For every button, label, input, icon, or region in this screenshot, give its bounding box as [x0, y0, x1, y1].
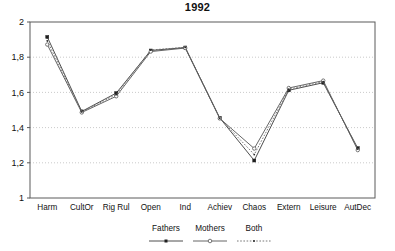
- y-tick-label: 1,8: [11, 52, 24, 62]
- data-point-fathers: [253, 159, 256, 162]
- y-tick-label: 1,2: [11, 158, 24, 168]
- x-tick-label: Chaos: [242, 203, 266, 212]
- legend-label-both[interactable]: Both: [246, 224, 263, 233]
- series-line-fathers: [47, 37, 358, 161]
- legend-marker-mothers: [208, 239, 212, 243]
- y-axis-ticks: 11,21,41,61,82: [11, 17, 30, 203]
- y-tick-label: 2: [19, 17, 24, 27]
- x-tick-label: Extern: [277, 203, 301, 212]
- y-tick-label: 1,4: [11, 123, 24, 133]
- data-point-both: [115, 94, 117, 96]
- legend-marker-fathers: [165, 240, 168, 243]
- series-line-both: [47, 41, 358, 155]
- data-point-both: [322, 81, 324, 83]
- chart-legend: FathersMothersBoth: [149, 224, 271, 243]
- data-point-both: [253, 154, 255, 156]
- data-point-both: [150, 49, 152, 51]
- chart-container: 1992 11,21,41,61,82 HarmCultOrRig RulOpe…: [0, 0, 395, 251]
- legend-marker-both: [253, 240, 255, 242]
- x-tick-label: Rig Rul: [103, 203, 130, 212]
- x-tick-label: Open: [141, 203, 161, 212]
- data-point-both: [288, 88, 290, 90]
- x-tick-label: Achiev: [207, 203, 232, 212]
- legend-label-mothers[interactable]: Mothers: [195, 224, 225, 233]
- data-point-both: [357, 148, 359, 150]
- data-point-both: [184, 46, 186, 48]
- data-point-mothers: [46, 43, 49, 46]
- data-series-group: [46, 35, 360, 162]
- y-tick-label: 1,6: [11, 88, 24, 98]
- x-tick-label: Harm: [37, 203, 57, 212]
- x-axis-ticks: HarmCultOrRig RulOpenIndAchievChaosExter…: [37, 203, 371, 212]
- data-point-mothers: [253, 147, 256, 150]
- data-point-both: [219, 117, 221, 119]
- series-line-mothers: [47, 45, 358, 151]
- x-tick-label: Leisure: [310, 203, 337, 212]
- x-tick-label: CultOr: [70, 203, 94, 212]
- line-chart-plot: 11,21,41,61,82 HarmCultOrRig RulOpenIndA…: [0, 0, 395, 251]
- data-point-fathers: [46, 35, 49, 38]
- y-tick-label: 1: [19, 193, 24, 203]
- x-tick-label: AutDec: [344, 203, 371, 212]
- data-point-both: [46, 40, 48, 42]
- legend-label-fathers[interactable]: Fathers: [152, 224, 180, 233]
- x-tick-label: Ind: [180, 203, 192, 212]
- data-point-both: [81, 111, 83, 113]
